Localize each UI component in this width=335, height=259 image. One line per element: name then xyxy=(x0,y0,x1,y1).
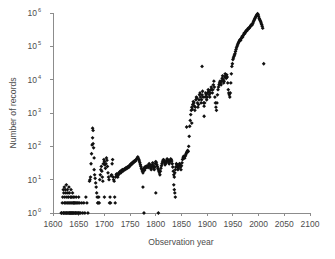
x-tick-label: 2000 xyxy=(249,219,268,229)
y-tick-label: 105 xyxy=(28,40,42,51)
x-tick-label: 1800 xyxy=(146,219,165,229)
x-tick-label: 1900 xyxy=(198,219,217,229)
y-tick-mantissa: 10 xyxy=(28,41,38,51)
data-point xyxy=(86,211,90,215)
data-point xyxy=(113,201,117,205)
y-tick-label: 100 xyxy=(28,207,42,218)
data-point xyxy=(172,188,176,192)
data-point xyxy=(90,152,94,156)
data-point xyxy=(98,178,102,182)
x-tick-label: 1950 xyxy=(223,219,242,229)
data-point xyxy=(229,72,233,76)
data-point xyxy=(230,62,234,66)
data-point xyxy=(92,156,96,160)
data-point xyxy=(89,175,93,179)
axes-group xyxy=(50,13,310,216)
x-tick-label: 2050 xyxy=(275,219,294,229)
y-tick-label: 103 xyxy=(28,107,42,118)
y-tick-exponent: 2 xyxy=(38,140,41,146)
data-point xyxy=(106,171,110,175)
data-point xyxy=(92,168,96,172)
data-point xyxy=(89,162,93,166)
data-point xyxy=(214,105,218,109)
data-point xyxy=(187,134,191,138)
data-point xyxy=(91,136,95,140)
x-tick-label: 1650 xyxy=(69,219,88,229)
y-tick-exponent: 1 xyxy=(38,174,41,180)
data-point xyxy=(173,191,177,195)
data-point xyxy=(107,178,111,182)
x-tick-label: 2100 xyxy=(301,219,320,229)
x-axis-title: Observation year xyxy=(148,237,214,247)
data-point xyxy=(101,179,105,183)
data-point xyxy=(187,144,191,148)
data-point xyxy=(110,162,114,166)
data-point xyxy=(77,195,81,199)
data-point xyxy=(94,185,98,189)
data-point xyxy=(156,211,160,215)
data-point xyxy=(93,173,97,177)
data-point xyxy=(172,183,176,187)
x-tick-label: 1700 xyxy=(95,219,114,229)
y-axis-title: Number of records xyxy=(8,77,18,148)
y-tick-mantissa: 10 xyxy=(28,175,38,185)
data-point xyxy=(154,191,158,195)
data-point xyxy=(189,113,193,117)
data-point xyxy=(202,104,206,108)
data-point xyxy=(226,88,230,92)
data-point xyxy=(95,191,99,195)
data-point xyxy=(84,195,88,199)
data-points-group xyxy=(59,12,265,215)
scatter-plot: 1001011021031041051061600165017001750180… xyxy=(0,0,335,259)
data-point xyxy=(111,158,115,162)
y-tick-exponent: 3 xyxy=(38,107,41,113)
y-tick-mantissa: 10 xyxy=(28,108,38,118)
data-point xyxy=(212,79,216,83)
data-point xyxy=(113,195,117,199)
data-point xyxy=(108,195,112,199)
data-point xyxy=(142,211,146,215)
data-point xyxy=(71,191,75,195)
data-point xyxy=(94,181,98,185)
x-tick-label: 1750 xyxy=(121,219,140,229)
y-tick-mantissa: 10 xyxy=(28,208,38,218)
y-tick-mantissa: 10 xyxy=(28,75,38,85)
data-point xyxy=(213,95,217,99)
data-point xyxy=(69,188,73,192)
y-tick-label: 104 xyxy=(28,74,42,85)
data-point xyxy=(173,195,177,199)
x-tick-label: 1850 xyxy=(172,219,191,229)
data-point xyxy=(202,114,206,118)
y-tick-label: 101 xyxy=(28,174,42,185)
data-point xyxy=(103,195,107,199)
data-point xyxy=(229,81,233,85)
data-point xyxy=(210,91,214,95)
data-point xyxy=(215,108,219,112)
y-tick-exponent: 0 xyxy=(38,207,41,213)
y-tick-exponent: 6 xyxy=(38,7,41,13)
data-point xyxy=(200,65,204,69)
data-point xyxy=(185,125,189,129)
data-point xyxy=(85,201,89,205)
y-tick-mantissa: 10 xyxy=(28,141,38,151)
y-tick-label: 102 xyxy=(28,140,42,151)
y-tick-exponent: 5 xyxy=(38,40,41,46)
data-point xyxy=(99,165,103,169)
data-point xyxy=(141,185,145,189)
chart-figure: 1001011021031041051061600165017001750180… xyxy=(0,0,335,259)
data-point xyxy=(188,124,192,128)
y-tick-label: 106 xyxy=(28,7,42,18)
y-tick-mantissa: 10 xyxy=(28,8,38,18)
data-point xyxy=(262,62,266,66)
data-point xyxy=(93,176,97,180)
x-tick-label: 1600 xyxy=(44,219,63,229)
y-tick-exponent: 4 xyxy=(38,74,41,80)
data-point xyxy=(216,93,220,97)
